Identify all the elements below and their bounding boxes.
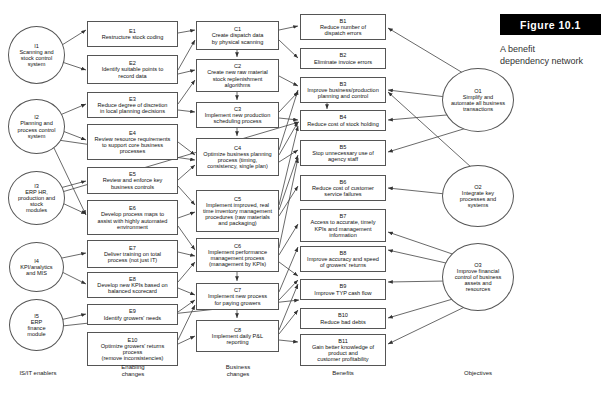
e2-line2: record data	[118, 73, 146, 79]
b3-line2: planning and control	[318, 93, 368, 99]
figure-caption-line2: dependency network	[500, 55, 604, 67]
enabling-change-node-e6[interactable]: E6 Develop process maps to assist with h…	[87, 200, 178, 235]
c8-line2: reporting	[226, 339, 248, 345]
figure-number-tag: Figure 10.1	[500, 14, 601, 35]
figure-tag-label: Figure 10.1	[520, 19, 581, 31]
enabler-i3-line4: modules	[26, 207, 47, 213]
enabling-change-node-e8[interactable]: E8 Develop new KPIs based on balanced sc…	[87, 272, 178, 298]
e10-line3: (remove inconsistencies)	[102, 355, 164, 361]
enabling-change-node-e9[interactable]: E9 Identify growers' needs	[87, 304, 178, 325]
b1-line2: dispatch errors	[325, 30, 362, 36]
col3-line2: changes	[202, 371, 274, 378]
enabler-i1-line3: system	[28, 61, 46, 67]
col1-line1: IS/IT enablers	[6, 370, 70, 377]
c7-line2: for paying growers	[214, 300, 260, 306]
col2-line1: Enabling	[96, 364, 170, 371]
b5-line2: agency staff	[328, 156, 358, 162]
objective-node-o3[interactable]: O3 Improve financial control of business…	[442, 243, 514, 311]
e3-line2: in local planning decisions	[100, 108, 165, 114]
business-change-node-c5[interactable]: C5 Implement improved, real time invento…	[196, 190, 279, 232]
column-label-objectives: Objectives	[445, 370, 511, 377]
figure-caption-line1: A benefit	[500, 43, 604, 55]
enabler-node-i3[interactable]: I3 ERP HR, production and stock modules	[8, 171, 65, 225]
benefit-node-b1[interactable]: B1 Reduce number of dispatch errors	[300, 14, 386, 40]
figure-caption: A benefit dependency network	[500, 43, 604, 67]
benefit-node-b2[interactable]: B2 Eliminate invoice errors	[300, 48, 386, 69]
b11-line3: customer profitability	[317, 356, 368, 362]
enabler-i5-line3: module	[27, 331, 45, 337]
business-change-node-c3[interactable]: C3 Implement new production scheduling p…	[196, 102, 279, 128]
enabling-change-node-e1[interactable]: E1 Restructure stock coding	[87, 21, 178, 47]
enabling-change-node-e4[interactable]: E4 Review resource requirements to suppo…	[87, 124, 178, 160]
enabling-change-node-e3[interactable]: E3 Reduce degree of discretion in local …	[87, 92, 178, 118]
o3-line4: resources	[466, 286, 491, 292]
benefit-node-b7[interactable]: B7 Access to accurate, timely KPIs and m…	[300, 209, 386, 242]
business-change-node-c8[interactable]: C8 Implement daily P&L reporting	[196, 320, 279, 352]
objective-node-o1[interactable]: O1 Simplify and automate all business tr…	[442, 68, 514, 132]
e4-line3: processes	[120, 148, 146, 154]
column-label-enabling-changes: Enabling changes	[96, 364, 170, 378]
b7-line3: information	[329, 232, 357, 238]
e7-line2: process (not just IT)	[108, 257, 157, 263]
benefit-node-b6[interactable]: B6 Reduce cost of customer service failu…	[300, 175, 386, 201]
benefit-node-b8[interactable]: B8 Improve accuracy and speed of growers…	[300, 246, 386, 272]
b9-line1: Improve TYP cash flow	[314, 290, 371, 296]
col5-line1: Objectives	[445, 370, 511, 377]
business-change-node-c4[interactable]: C4 Optimize business planning process (t…	[196, 138, 279, 176]
b4-line1: Reduce cost of stock holding	[307, 121, 379, 127]
business-change-node-c1[interactable]: C1 Create dispatch data by physical scan…	[196, 21, 279, 50]
b6-line2: service failures	[324, 191, 361, 197]
o2-line3: systems	[468, 202, 489, 208]
c4-line3: consistency, single plan)	[207, 163, 268, 169]
enabler-node-i1[interactable]: I1 Scanning and stock control system	[8, 26, 65, 84]
b10-line1: Reduce bad debts	[320, 319, 365, 325]
enabling-change-node-e2[interactable]: E2 Identify suitable points to record da…	[87, 55, 178, 84]
business-change-node-c7[interactable]: C7 Implement new process for paying grow…	[196, 283, 279, 310]
benefit-dependency-network-diagram: I1 Scanning and stock control system I2 …	[0, 0, 608, 399]
business-change-node-c6[interactable]: C6 Implement performance management proc…	[196, 238, 279, 272]
enabling-change-node-e5[interactable]: E5 Review and enforce key business contr…	[87, 167, 178, 194]
benefit-node-b5[interactable]: B5 Stop unnecessary use of agency staff	[300, 140, 386, 166]
c5-line4: and packaging)	[218, 220, 256, 226]
c2-line3: algorithms	[225, 82, 251, 88]
enabler-node-i4[interactable]: I4 KPI/analytics and MIS	[9, 242, 64, 292]
b2-line1: Eliminate invoice errors	[314, 59, 372, 65]
e6-line3: environment	[117, 224, 148, 230]
enabling-change-node-e10[interactable]: E10 Optimize growers' returns process (r…	[87, 332, 178, 366]
benefit-node-b3[interactable]: B3 Improve business/production planning …	[300, 77, 386, 103]
column-label-is-it-enablers: IS/IT enablers	[6, 370, 70, 377]
c1-line2: by physical scanning	[212, 39, 264, 45]
o1-line3: transactions	[463, 106, 493, 112]
enabler-node-i5[interactable]: I5 ERP finance module	[9, 299, 64, 351]
column-label-benefits: Benefits	[310, 370, 376, 377]
col4-line1: Benefits	[310, 370, 376, 377]
objective-node-o2[interactable]: O2 Integrate key processes and systems	[442, 165, 514, 227]
enabling-change-node-e7[interactable]: E7 Deliver training on total process (no…	[87, 240, 178, 268]
enabler-i2-line3: system	[28, 133, 46, 139]
enabler-node-i2[interactable]: I2 Planning and process control system	[8, 99, 65, 154]
enabler-i4-line2: and MIS	[26, 270, 47, 276]
column-label-business-changes: Business changes	[202, 364, 274, 378]
benefit-node-b11[interactable]: B11 Gain better knowledge of product and…	[300, 334, 386, 366]
e9-line1: Identify growers' needs	[104, 315, 161, 321]
col3-line1: Business	[202, 364, 274, 371]
business-change-node-c2[interactable]: C2 Create new raw material stock repleni…	[196, 59, 279, 92]
benefit-node-b9[interactable]: B9 Improve TYP cash flow	[300, 279, 386, 300]
benefit-node-b4[interactable]: B4 Reduce cost of stock holding	[300, 110, 386, 131]
benefit-node-b10[interactable]: B10 Reduce bad debts	[300, 308, 386, 329]
col2-line2: changes	[96, 371, 170, 378]
e1-line1: Restructure stock coding	[102, 34, 164, 40]
c6-line3: (management by KPIs)	[209, 261, 266, 267]
c3-line2: scheduling process	[214, 118, 262, 124]
e8-line2: balanced scorecard	[108, 288, 157, 294]
e5-line2: business controls	[111, 184, 154, 190]
b8-line2: of growers' returns	[320, 262, 366, 268]
